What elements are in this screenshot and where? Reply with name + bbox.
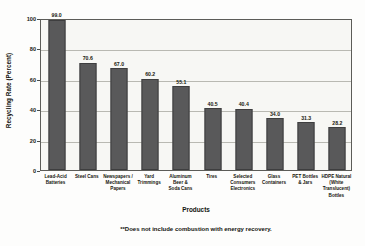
- category-label: Lead-AcidBatteries: [40, 174, 71, 186]
- bar-slot: 31.3: [291, 20, 322, 170]
- bar-value-label: 60.2: [145, 71, 155, 77]
- bar-slot: 40.5: [197, 20, 228, 170]
- x-axis-title: Products: [40, 206, 352, 213]
- y-tick-label-100: 100: [20, 16, 36, 22]
- bar-slot: 60.2: [135, 20, 166, 170]
- bar: [142, 79, 159, 171]
- bar: [266, 118, 283, 170]
- bar-value-label: 40.4: [239, 101, 249, 107]
- bar-slot: 70.6: [72, 20, 103, 170]
- bar: [110, 68, 127, 170]
- bar-value-label: 28.2: [332, 120, 342, 126]
- category-label: GlassContainers: [258, 174, 289, 186]
- category-label: Newspapers /MechanicalPapers: [102, 174, 133, 193]
- bar-value-label: 55.1: [176, 79, 186, 85]
- y-tick-label-80: 80: [20, 46, 36, 52]
- category-label: PET Bottles& Jars: [290, 174, 321, 186]
- bar-value-label: 40.5: [208, 101, 218, 107]
- category-label-line: Trimmings: [134, 180, 165, 186]
- bar-slot: 28.2: [322, 20, 353, 170]
- y-axis-title: Recycling Rate (Percent): [2, 30, 16, 150]
- y-tick-label-60: 60: [20, 77, 36, 83]
- bar-slot: 67.0: [103, 20, 134, 170]
- category-label-line: Soda Cans: [165, 186, 196, 192]
- bar: [298, 122, 315, 170]
- bar: [204, 108, 221, 170]
- bar-slot: 40.4: [228, 20, 259, 170]
- y-tick-label-0: 0: [20, 168, 36, 174]
- category-label-line: Steel Cans: [71, 174, 102, 180]
- bar-slot: 55.1: [166, 20, 197, 170]
- bar-value-label: 99.0: [52, 12, 62, 18]
- bar: [173, 86, 190, 170]
- bar: [329, 127, 346, 170]
- category-label: Steel Cans: [71, 174, 102, 180]
- category-label-line: Papers: [102, 186, 133, 192]
- plot-area: 99.070.667.060.255.140.540.434.031.328.2: [40, 19, 352, 171]
- category-label-line: & Jars: [290, 180, 321, 186]
- x-axis-category-labels: Lead-AcidBatteriesSteel CansNewspapers /…: [40, 174, 352, 222]
- bar-value-label: 34.0: [270, 111, 280, 117]
- category-label: AluminumBeer &Soda Cans: [165, 174, 196, 193]
- y-tick-label-20: 20: [20, 138, 36, 144]
- category-label-line: Batteries: [40, 180, 71, 186]
- category-label-line: Electronics: [227, 186, 258, 192]
- y-axis-title-text: Recycling Rate (Percent): [6, 52, 13, 127]
- bar: [48, 20, 65, 170]
- category-label-line: Translucent): [321, 186, 352, 192]
- bar-value-label: 67.0: [114, 61, 124, 67]
- category-label-line: Containers: [258, 180, 289, 186]
- category-label-line: Tires: [196, 174, 227, 180]
- category-label: YardTrimmings: [134, 174, 165, 186]
- bar: [235, 109, 252, 170]
- chart-footnote: **Does not include combustion with energ…: [40, 226, 352, 232]
- category-label-line: Bottles: [321, 193, 352, 199]
- bar-value-label: 70.6: [83, 55, 93, 61]
- bar-value-label: 31.3: [301, 115, 311, 121]
- category-label: SelectedConsumersElectronics: [227, 174, 258, 193]
- bar-slot: 34.0: [259, 20, 290, 170]
- y-tick-label-40: 40: [20, 107, 36, 113]
- bars-layer: 99.070.667.060.255.140.540.434.031.328.2: [41, 20, 351, 170]
- category-label: Tires: [196, 174, 227, 180]
- y-tick-mark-0: [37, 171, 40, 172]
- recycling-rate-bar-chart: Recycling Rate (Percent) 020406080100 99…: [0, 0, 365, 246]
- bar: [79, 63, 96, 170]
- bar-slot: 99.0: [41, 20, 72, 170]
- y-axis-tick-labels: 020406080100: [16, 0, 36, 246]
- category-label: HDPE Natural(WhiteTranslucent)Bottles: [321, 174, 352, 199]
